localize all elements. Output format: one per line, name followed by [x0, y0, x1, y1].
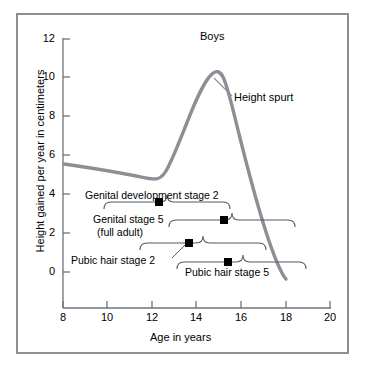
marker-genital-stage-5: [220, 216, 228, 224]
bracket-genital-stage-5: [169, 213, 295, 227]
y-tick-label-6: 6: [35, 148, 55, 160]
genital-stage-2-label: Genital development stage 2: [85, 189, 219, 201]
y-tick-label-8: 8: [35, 109, 55, 121]
figure-page: Boys Height spurt Height gained per year…: [0, 0, 370, 383]
x-tick-label-18: 18: [276, 311, 296, 323]
marker-pubic-hair-stage-2: [185, 239, 193, 247]
x-tick-marks: [63, 301, 330, 308]
y-tick-label-10: 10: [35, 70, 55, 82]
chart-title: Boys: [200, 30, 224, 42]
y-tick-marks: [63, 39, 70, 272]
pubic-hair-stage-2-label: Pubic hair stage 2: [71, 254, 155, 266]
pubic-hair-stage-5-label: Pubic hair stage 5: [185, 266, 269, 278]
y-tick-label-0: 0: [35, 265, 55, 277]
y-tick-label-12: 12: [35, 32, 55, 44]
x-tick-label-10: 10: [97, 311, 117, 323]
bracket-pubic-hair-stage-2: [140, 236, 266, 250]
y-tick-label-4: 4: [35, 187, 55, 199]
x-tick-label-8: 8: [53, 311, 73, 323]
pubic-hair-stage-2-leader-line: [172, 244, 186, 258]
y-tick-label-2: 2: [35, 226, 55, 238]
x-tick-label-20: 20: [320, 311, 340, 323]
genital-stage-5-label: Genital stage 5: [93, 213, 164, 225]
x-tick-label-16: 16: [231, 311, 251, 323]
genital-stage-5-sublabel: (full adult): [97, 226, 143, 238]
x-tick-label-12: 12: [142, 311, 162, 323]
x-tick-label-14: 14: [186, 311, 206, 323]
marker-pubic-hair-stage-5: [224, 258, 232, 266]
x-axis-label: Age in years: [150, 331, 211, 343]
height-spurt-label: Height spurt: [234, 91, 293, 103]
